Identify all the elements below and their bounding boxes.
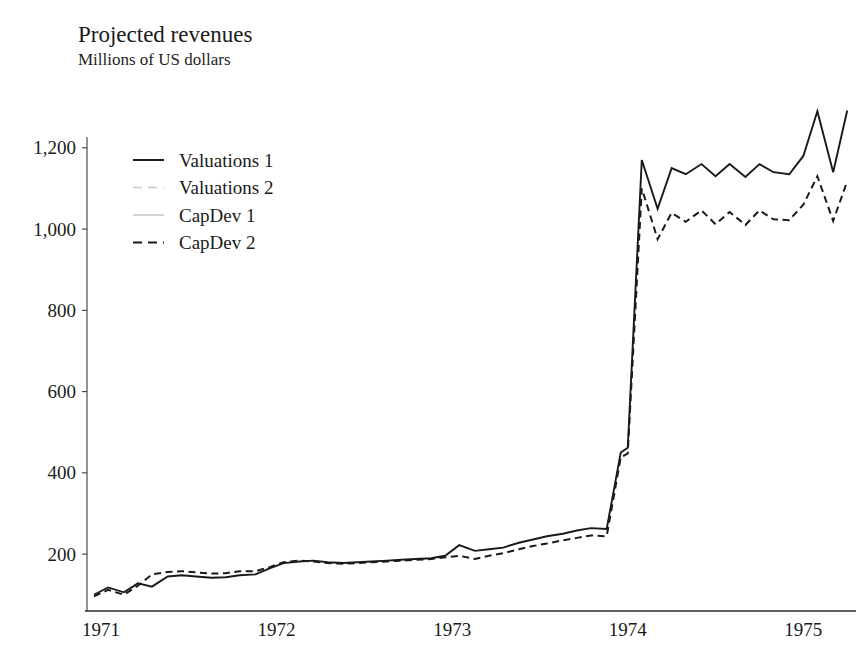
legend-label-capdev-1: CapDev 1 [179, 205, 256, 226]
x-tick-label: 1971 [82, 619, 120, 640]
x-tick-label: 1973 [433, 619, 471, 640]
chart-container: Projected revenues Millions of US dollar… [0, 0, 863, 669]
y-tick-label: 200 [48, 544, 77, 565]
y-tick-label: 1,200 [33, 137, 76, 158]
x-axis: 19711972197319741975 [82, 611, 856, 640]
legend-label-valuations-1: Valuations 1 [179, 150, 273, 171]
y-tick-label: 600 [48, 381, 77, 402]
x-tick-label: 1975 [784, 619, 822, 640]
line-chart-plot: 2004006008001,0001,200 19711972197319741… [0, 0, 863, 669]
x-tick-label: 1972 [258, 619, 296, 640]
chart-legend: Valuations 1Valuations 2CapDev 1CapDev 2 [133, 150, 273, 254]
legend-label-valuations-2: Valuations 2 [179, 177, 273, 198]
y-tick-label: 1,000 [33, 219, 76, 240]
legend-label-capdev-2: CapDev 2 [179, 232, 256, 253]
y-axis: 2004006008001,0001,200 [33, 137, 87, 611]
x-tick-label: 1974 [609, 619, 648, 640]
y-tick-label: 400 [48, 462, 77, 483]
y-tick-label: 800 [48, 300, 77, 321]
